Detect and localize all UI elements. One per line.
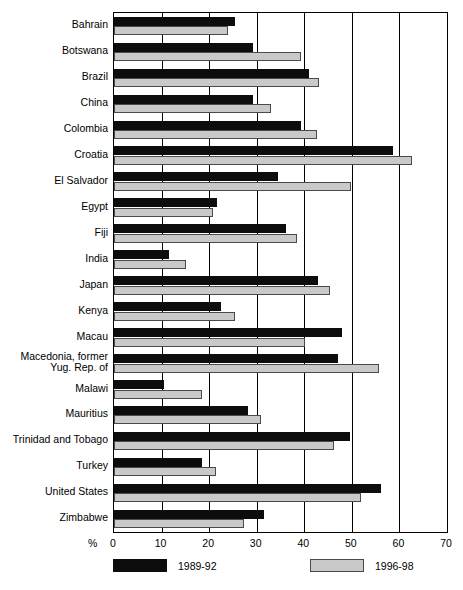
legend-label: 1996-98 (375, 560, 414, 572)
bar-1996-98 (114, 208, 213, 217)
category-label: Japan (0, 279, 108, 291)
bar-1996-98 (114, 104, 271, 113)
bar-1989-92 (114, 146, 393, 155)
category-axis-labels: BahrainBotswanaBrazilChinaColombiaCroati… (0, 12, 108, 531)
bar-1996-98 (114, 26, 228, 35)
bar-row (114, 273, 447, 299)
bar-row (114, 65, 447, 91)
legend-swatch-dark (113, 559, 167, 572)
chart-legend: 1989-921996-98 (113, 559, 453, 579)
bar-row (114, 195, 447, 221)
bar-row (114, 480, 447, 506)
plot-area (113, 12, 448, 533)
category-label: Malawi (0, 383, 108, 395)
bar-1996-98 (114, 415, 261, 424)
bar-rows (114, 13, 447, 532)
legend-label: 1989-92 (178, 560, 217, 572)
bar-1996-98 (114, 467, 216, 476)
bar-1989-92 (114, 406, 248, 415)
bar-row (114, 247, 447, 273)
category-label: Macau (0, 331, 108, 343)
category-label: El Salvador (0, 175, 108, 187)
bar-row (114, 454, 447, 480)
x-tick-label-10: 10 (146, 537, 176, 549)
legend-item: 1989-92 (113, 559, 217, 572)
bar-1989-92 (114, 276, 318, 285)
bar-1996-98 (114, 52, 301, 61)
bar-1996-98 (114, 390, 202, 399)
bar-1996-98 (114, 312, 235, 321)
bar-row (114, 506, 447, 532)
x-tick-label-60: 60 (383, 537, 413, 549)
category-label: United States (0, 486, 108, 498)
x-axis-unit-label: % (88, 537, 97, 549)
x-tick-label-0: 0 (98, 537, 128, 549)
bar-1989-92 (114, 510, 264, 519)
bar-1989-92 (114, 250, 169, 259)
bar-row (114, 402, 447, 428)
x-axis: % 010203040506070 (0, 533, 463, 553)
x-tick-label-70: 70 (431, 537, 461, 549)
category-label: Croatia (0, 149, 108, 161)
bar-1996-98 (114, 338, 305, 347)
bar-1989-92 (114, 43, 253, 52)
category-label: Colombia (0, 123, 108, 135)
bar-1996-98 (114, 78, 319, 87)
bar-1989-92 (114, 302, 221, 311)
legend-swatch-light (310, 559, 364, 572)
category-label: China (0, 97, 108, 109)
bar-1989-92 (114, 354, 338, 363)
x-tick-label-40: 40 (288, 537, 318, 549)
bar-1996-98 (114, 364, 379, 373)
bar-1996-98 (114, 130, 317, 139)
category-label: Turkey (0, 460, 108, 472)
category-label: Zimbabwe (0, 512, 108, 524)
category-label: Fiji (0, 227, 108, 239)
bar-1989-92 (114, 198, 217, 207)
bar-row (114, 376, 447, 402)
bar-row (114, 13, 447, 39)
category-label: Brazil (0, 71, 108, 83)
category-label: Trinidad and Tobago (0, 434, 108, 446)
bar-1996-98 (114, 519, 244, 528)
bar-1996-98 (114, 493, 361, 502)
x-tick-label-30: 30 (241, 537, 271, 549)
category-label: Egypt (0, 201, 108, 213)
bar-row (114, 143, 447, 169)
x-tick-label-20: 20 (193, 537, 223, 549)
category-label: Kenya (0, 305, 108, 317)
bar-1989-92 (114, 328, 342, 337)
bar-1989-92 (114, 172, 278, 181)
category-label: India (0, 253, 108, 265)
bar-row (114, 39, 447, 65)
bar-1989-92 (114, 458, 202, 467)
bar-1989-92 (114, 224, 286, 233)
legend-item: 1996-98 (310, 559, 414, 572)
category-label: Macedonia, former Yug. Rep. of (0, 351, 108, 374)
bar-row (114, 324, 447, 350)
bar-1996-98 (114, 441, 334, 450)
x-tick-label-50: 50 (336, 537, 366, 549)
bar-1989-92 (114, 484, 381, 493)
bar-chart: BahrainBotswanaBrazilChinaColombiaCroati… (0, 0, 463, 590)
bar-1996-98 (114, 286, 330, 295)
category-label: Mauritius (0, 408, 108, 420)
bar-1996-98 (114, 260, 186, 269)
bar-1989-92 (114, 432, 350, 441)
bar-1989-92 (114, 95, 253, 104)
bar-1989-92 (114, 69, 309, 78)
bar-row (114, 350, 447, 376)
bar-row (114, 298, 447, 324)
category-label: Botswana (0, 45, 108, 57)
bar-1989-92 (114, 380, 164, 389)
bar-1996-98 (114, 156, 412, 165)
bar-1996-98 (114, 234, 297, 243)
category-label: Bahrain (0, 19, 108, 31)
bar-1996-98 (114, 182, 351, 191)
bar-row (114, 91, 447, 117)
bar-row (114, 221, 447, 247)
bar-1989-92 (114, 17, 235, 26)
bar-row (114, 117, 447, 143)
bar-1989-92 (114, 121, 301, 130)
bar-row (114, 169, 447, 195)
